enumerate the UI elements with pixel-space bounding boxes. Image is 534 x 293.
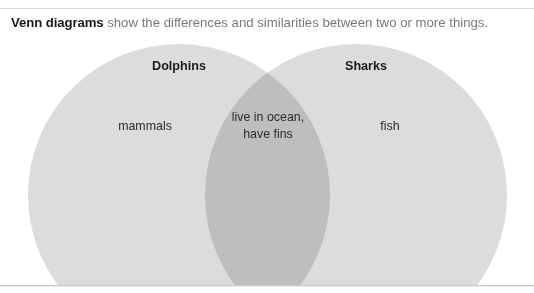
- caption-description: show the differences and similarities be…: [104, 15, 489, 30]
- caption-lead-term: Venn diagrams: [11, 15, 104, 30]
- intersection-line-1: live in ocean,: [212, 109, 324, 126]
- intersection-line-2: have fins: [212, 126, 324, 143]
- region-label-sharks-only: fish: [340, 118, 440, 135]
- set-title-dolphins: Dolphins: [104, 59, 254, 73]
- figure-caption: Venn diagrams show the differences and s…: [11, 14, 488, 31]
- set-title-sharks: Sharks: [291, 59, 441, 73]
- frame-bottom-divider-highlight: [0, 286, 534, 287]
- region-label-dolphins-only: mammals: [90, 118, 200, 135]
- venn-diagram-figure: Venn diagrams show the differences and s…: [0, 0, 534, 293]
- venn-plate: Dolphins Sharks mammals live in ocean, h…: [0, 9, 534, 285]
- region-label-intersection: live in ocean, have fins: [212, 109, 324, 143]
